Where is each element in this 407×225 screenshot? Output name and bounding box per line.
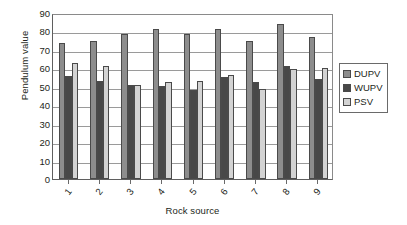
x-axis-tick-label: 9 (309, 183, 325, 199)
x-axis-title: Rock source (52, 205, 333, 216)
y-axis-tick-label: 60 (24, 65, 50, 75)
plot-area (52, 14, 333, 180)
bars-layer (53, 15, 332, 179)
legend: DUPVWUPVPSV (339, 63, 388, 113)
bar-psv-5 (197, 81, 203, 179)
x-axis-tick-label: 4 (153, 183, 169, 199)
y-axis-tick-label: 10 (24, 157, 50, 167)
bar-psv-4 (165, 82, 171, 179)
y-axis-tick-label: 90 (24, 9, 50, 19)
legend-item-psv[interactable]: PSV (343, 95, 383, 109)
y-axis-tick-labels: 0102030405060708090 (24, 14, 50, 180)
bar-group (246, 15, 265, 179)
x-axis-tick-label: 5 (184, 183, 200, 199)
bar-chart: Pendulum value 0102030405060708090 12345… (0, 0, 407, 225)
bar-psv-8 (290, 69, 296, 179)
bar-psv-1 (72, 63, 78, 179)
bar-group (309, 15, 328, 179)
bar-psv-3 (134, 85, 140, 179)
legend-label: PSV (354, 97, 373, 107)
legend-swatch-icon (343, 84, 351, 92)
bar-group (59, 15, 78, 179)
bar-group (184, 15, 203, 179)
x-axis-tick-label: 8 (278, 183, 294, 199)
bar-psv-9 (322, 68, 328, 179)
y-axis-tick-label: 50 (24, 83, 50, 93)
bar-group (153, 15, 172, 179)
y-axis-tick-label: 70 (24, 46, 50, 56)
bar-psv-7 (259, 89, 265, 179)
y-axis-tick-label: 40 (24, 101, 50, 111)
legend-label: DUPV (354, 69, 380, 79)
bar-group (277, 15, 296, 179)
legend-item-wupv[interactable]: WUPV (343, 81, 383, 95)
bar-group (90, 15, 109, 179)
legend-label: WUPV (354, 83, 383, 93)
legend-swatch-icon (343, 70, 351, 78)
y-axis-tick-label: 30 (24, 120, 50, 130)
y-axis-tick-label: 80 (24, 28, 50, 38)
x-axis-tick-label: 7 (247, 183, 263, 199)
y-axis-tick-label: 0 (24, 175, 50, 185)
legend-item-dupv[interactable]: DUPV (343, 67, 383, 81)
y-axis-tick-label: 20 (24, 138, 50, 148)
bar-psv-2 (103, 66, 109, 179)
x-axis-tick-label: 3 (122, 183, 138, 199)
x-axis-tick-label: 6 (216, 183, 232, 199)
bar-group (121, 15, 140, 179)
x-axis-tick-label: 2 (91, 183, 107, 199)
bar-psv-6 (228, 75, 234, 179)
bar-group (215, 15, 234, 179)
legend-swatch-icon (343, 98, 351, 106)
x-axis-tick-labels: 123456789 (52, 184, 333, 204)
x-axis-tick-label: 1 (60, 183, 76, 199)
